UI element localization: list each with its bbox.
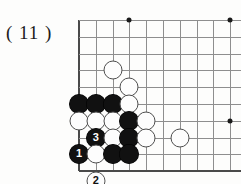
grid-line-vertical-6 bbox=[180, 20, 181, 171]
grid-line-vertical-8 bbox=[213, 20, 214, 171]
grid-line-vertical-5 bbox=[163, 20, 164, 171]
black-move-3-label: 3 bbox=[93, 132, 99, 143]
black-stone-c3r8[interactable] bbox=[120, 145, 139, 164]
star-point-top bbox=[127, 18, 132, 23]
grid-line-vertical-7 bbox=[197, 20, 198, 171]
white-stone-c6r7[interactable] bbox=[170, 128, 189, 147]
star-point-top-right bbox=[228, 18, 233, 23]
diagram-root: ( 11 ) 312 bbox=[0, 0, 241, 184]
grid-line-vertical-4 bbox=[146, 20, 147, 171]
grid-line-horizontal-9 bbox=[79, 170, 241, 172]
white-stone-c4r7[interactable] bbox=[137, 128, 156, 147]
grid-line-horizontal-1 bbox=[79, 37, 241, 38]
white-stone-c2r3[interactable] bbox=[103, 61, 122, 80]
grid-line-vertical-9 bbox=[230, 20, 231, 171]
white-move-2-offboard[interactable]: 2 bbox=[86, 172, 105, 184]
go-board[interactable]: 312 bbox=[0, 0, 241, 184]
grid-line-horizontal-2 bbox=[79, 54, 241, 55]
black-move-1-label: 1 bbox=[76, 148, 82, 159]
grid-line-horizontal-0 bbox=[79, 20, 241, 21]
grid-line-horizontal-4 bbox=[79, 87, 241, 88]
star-point-right bbox=[228, 118, 233, 123]
white-move-2-offboard-label: 2 bbox=[93, 175, 99, 184]
